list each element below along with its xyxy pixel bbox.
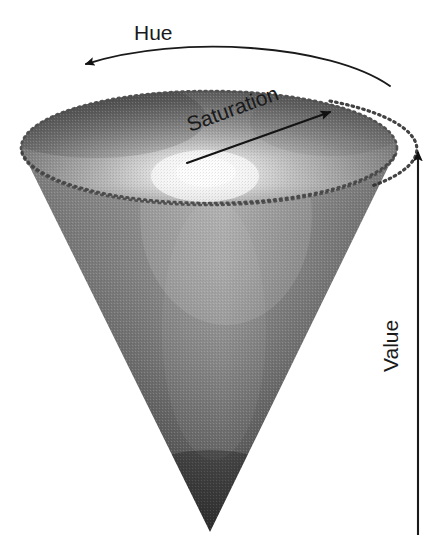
hsv-cone-figure: Hue Saturation Value [0, 0, 445, 560]
hue-arrow [86, 47, 390, 86]
hsv-cone-diagram: Hue Saturation Value [0, 0, 445, 560]
hue-label: Hue [134, 21, 173, 44]
hue-axis: Hue [86, 21, 390, 86]
value-axis: Value [379, 152, 418, 535]
value-label: Value [379, 320, 402, 372]
